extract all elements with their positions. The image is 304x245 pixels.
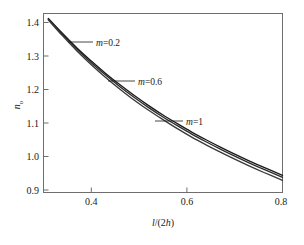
y-tick-label-0: 0.9 <box>27 185 40 196</box>
x-axis-title-close: ) <box>171 217 174 229</box>
svg-text:m=0.6: m=0.6 <box>138 77 162 87</box>
annotation-m06-value: =0.6 <box>145 77 162 87</box>
y-tick-label-1: 1.0 <box>27 151 40 162</box>
annotation-m1-value: =1 <box>193 117 203 127</box>
x-tick-label-2: 0.8 <box>275 196 288 207</box>
svg-text:l/(2h): l/(2h) <box>152 217 174 229</box>
x-axis-title-open: /(2 <box>155 217 166 229</box>
y-tick-label-3: 1.2 <box>27 84 40 95</box>
y-axis-title-subscript: o <box>17 100 25 104</box>
x-tick-label-0: 0.4 <box>85 196 98 207</box>
svg-text:m=1: m=1 <box>186 117 203 127</box>
x-tick-label-1: 0.6 <box>181 196 194 207</box>
y-tick-label-4: 1.3 <box>27 51 40 62</box>
svg-text:m=0.2: m=0.2 <box>96 38 120 48</box>
y-tick-label-5: 1.4 <box>27 17 40 28</box>
y-tick-label-2: 1.1 <box>27 118 40 129</box>
annotation-m02-value: =0.2 <box>103 38 120 48</box>
x-axis-title: l/(2h) <box>152 217 174 229</box>
chart-figure: 1.4 1.3 1.2 1.1 1.0 0.9 0.4 0.6 0.8 no l… <box>0 0 304 245</box>
